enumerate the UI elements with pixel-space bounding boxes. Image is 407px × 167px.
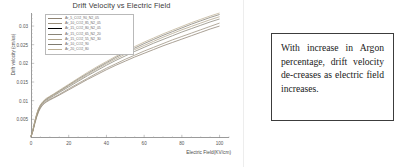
legend-item: Ar_20_CO2_80 bbox=[46, 47, 133, 52]
legend-swatch bbox=[48, 28, 62, 29]
x-tick-label: 80 bbox=[179, 141, 184, 146]
legend-label: Ar_20_CO2_80 bbox=[65, 47, 89, 52]
legend-swatch bbox=[48, 39, 62, 40]
annotation-box: With increase in Argon percentage, drift… bbox=[271, 33, 394, 121]
x-tick-label: 60 bbox=[142, 141, 147, 146]
legend-swatch bbox=[48, 23, 62, 24]
slide-canvas: Drift Velocity vs Electric Field 0.0050.… bbox=[0, 0, 407, 167]
y-tick-label: 0.01 bbox=[2, 98, 28, 103]
y-tick-label: 0.005 bbox=[2, 117, 28, 122]
chart-legend: Ar_5_CO2_90_N2_05Ar_10_CO2_85_N2_05Ar_15… bbox=[45, 14, 134, 55]
legend-swatch bbox=[48, 34, 62, 35]
panel-divider bbox=[243, 0, 244, 167]
x-axis-title: Electric Field(KV/cm) bbox=[186, 150, 231, 155]
x-tick-label: 20 bbox=[66, 141, 71, 146]
x-tick-label: 100 bbox=[216, 141, 224, 146]
legend-swatch bbox=[48, 18, 62, 19]
legend-swatch bbox=[48, 44, 62, 45]
chart-panel: Drift Velocity vs Electric Field 0.0050.… bbox=[0, 0, 243, 167]
x-tick-label: 40 bbox=[104, 141, 109, 146]
annotation-text: With increase in Argon percentage, drift… bbox=[281, 41, 384, 95]
legend-swatch bbox=[48, 49, 62, 50]
y-axis-title: Drift velocity (cm/us) bbox=[11, 25, 16, 85]
x-tick-label: 0 bbox=[30, 141, 33, 146]
